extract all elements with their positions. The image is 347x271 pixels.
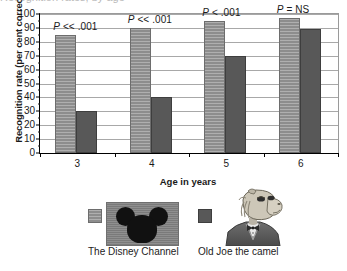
x-tick-mark <box>189 153 190 157</box>
y-tick-mark-minor <box>38 76 41 77</box>
y-tick-label: 70 <box>24 51 35 61</box>
y-tick-mark <box>36 139 40 140</box>
p-value-text: = NS <box>284 4 310 15</box>
legend-label-old-joe: Old Joe the camel <box>198 246 279 257</box>
bar-old-joe-the-camel-age-3 <box>76 111 97 153</box>
bar-the-disney-channel-age-3 <box>55 35 76 153</box>
y-tick-mark <box>36 83 40 84</box>
bar-old-joe-the-camel-age-6 <box>300 29 321 153</box>
p-value-text: < .001 <box>209 7 241 18</box>
y-tick-mark <box>36 41 40 42</box>
p-value-annotation-age-5: P < .001 <box>202 7 240 18</box>
p-symbol: P <box>53 21 60 32</box>
bar-old-joe-the-camel-age-5 <box>225 56 246 153</box>
y-tick-mark <box>36 97 40 98</box>
bar-the-disney-channel-age-5 <box>204 21 225 153</box>
x-tick-label-6: 6 <box>298 159 304 169</box>
mickey-head <box>127 215 157 243</box>
legend-swatch-old-joe <box>198 209 212 223</box>
legend-label-disney: The Disney Channel <box>88 246 179 257</box>
y-tick-mark-minor <box>38 34 41 35</box>
x-tick-mark <box>40 153 41 157</box>
y-tick-mark <box>36 125 40 126</box>
x-tick-mark <box>338 153 339 157</box>
y-tick-mark-minor <box>38 62 41 63</box>
chart-legend: The Disney Channel <box>0 190 347 271</box>
y-tick-mark-minor <box>38 146 41 147</box>
y-tick-mark <box>36 111 40 112</box>
old-joe-camel-illustration <box>216 188 288 246</box>
y-tick-mark-minor <box>38 132 41 133</box>
y-tick-label: 90 <box>24 23 35 33</box>
x-tick-label-4: 4 <box>149 159 155 169</box>
y-tick-label: 100 <box>18 9 35 19</box>
y-tick-mark-minor <box>38 48 41 49</box>
p-symbol: P <box>202 7 209 18</box>
mickey-mouse-logo-icon <box>106 202 179 246</box>
x-tick-label-5: 5 <box>223 159 229 169</box>
y-tick-label: 20 <box>24 120 35 130</box>
y-tick-mark <box>36 69 40 70</box>
p-symbol: P <box>277 4 284 15</box>
y-tick-label: 40 <box>24 92 35 102</box>
p-value-text: << .001 <box>60 21 98 32</box>
x-tick-mark <box>115 153 116 157</box>
p-value-text: << .001 <box>135 14 173 25</box>
y-tick-label: 30 <box>24 106 35 116</box>
y-axis-label: Recognition rate (per cent correct) <box>13 0 24 144</box>
old-joe-camel-icon <box>216 188 288 246</box>
y-tick-label: 10 <box>24 134 35 144</box>
y-tick-mark <box>36 14 40 15</box>
x-tick-label-3: 3 <box>74 159 80 169</box>
bar-chart: Recognition rate (per cent correct) 0102… <box>0 0 347 192</box>
y-tick-mark-minor <box>38 118 41 119</box>
bar-the-disney-channel-age-6 <box>279 18 300 153</box>
plot-area: 0102030405060708090100 P << .001P << .00… <box>39 13 339 154</box>
bar-old-joe-the-camel-age-4 <box>151 97 172 153</box>
p-value-annotation-age-4: P << .001 <box>128 14 172 25</box>
p-value-annotation-age-6: P = NS <box>277 4 310 15</box>
x-tick-mark <box>264 153 265 157</box>
y-tick-mark-minor <box>38 20 41 21</box>
y-tick-label: 60 <box>24 65 35 75</box>
y-tick-label: 0 <box>29 148 35 158</box>
y-tick-mark <box>36 27 40 28</box>
y-tick-label: 50 <box>24 79 35 89</box>
bar-the-disney-channel-age-4 <box>130 28 151 153</box>
y-tick-mark-minor <box>38 104 41 105</box>
legend-swatch-disney <box>88 209 102 223</box>
p-value-annotation-age-3: P << .001 <box>53 21 97 32</box>
y-tick-mark-minor <box>38 90 41 91</box>
x-axis-label: Age in years <box>39 176 337 187</box>
y-tick-mark <box>36 55 40 56</box>
p-symbol: P <box>128 14 135 25</box>
y-tick-label: 80 <box>24 37 35 47</box>
